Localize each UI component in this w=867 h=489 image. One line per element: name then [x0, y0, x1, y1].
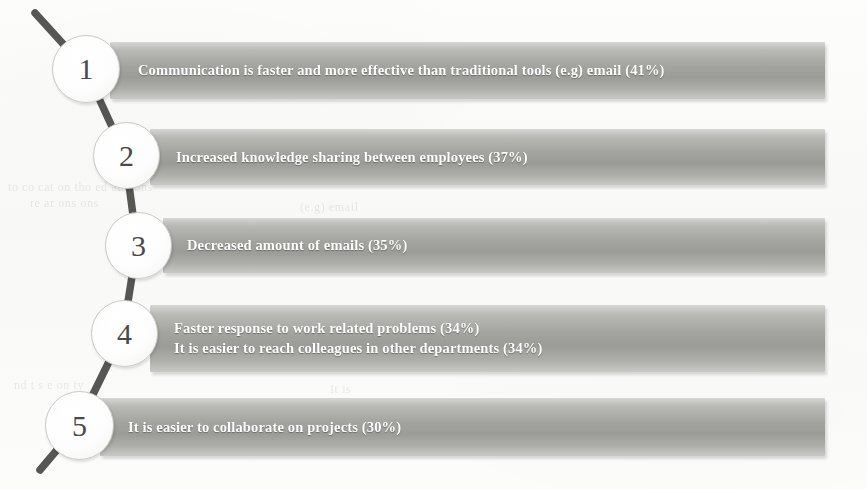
ghost-text-line-d: (e.g) email — [300, 200, 359, 215]
rank-node-3[interactable]: 3 — [105, 212, 172, 279]
rank-number: 2 — [119, 141, 134, 171]
rank-number: 5 — [72, 411, 87, 441]
list-item-bar-5[interactable]: It is easier to collaborate on projects … — [100, 398, 825, 456]
list-item-bar-3[interactable]: Decreased amount of emails (35%) — [163, 218, 825, 273]
ghost-text-line-e: It is — [330, 382, 351, 397]
list-item-label: Decreased amount of emails (35%) — [187, 237, 825, 254]
list-item-label: Increased knowledge sharing between empl… — [176, 149, 825, 166]
infographic-canvas: to co cat on tho ed at c ons re ar ons o… — [0, 0, 867, 489]
rank-number: 3 — [131, 231, 146, 261]
list-item-label: It is easier to collaborate on projects … — [128, 419, 825, 436]
list-item-label: Communication is faster and more effecti… — [138, 62, 825, 79]
list-item-bar-4[interactable]: Faster response to work related problems… — [150, 305, 825, 372]
list-item-bar-2[interactable]: Increased knowledge sharing between empl… — [150, 129, 825, 185]
rank-number: 4 — [117, 319, 132, 349]
rank-node-5[interactable]: 5 — [45, 391, 114, 460]
ghost-text-line-c: nd t s e on ty — [14, 378, 834, 393]
rank-node-2[interactable]: 2 — [93, 122, 160, 189]
list-item-label-secondary: It is easier to reach colleagues in othe… — [174, 340, 825, 357]
rank-number: 1 — [79, 54, 94, 84]
rank-node-4[interactable]: 4 — [91, 300, 158, 367]
ghost-text-line-b: re ar ons ons — [30, 196, 830, 211]
rank-node-1[interactable]: 1 — [52, 35, 120, 103]
list-item-label: Faster response to work related problems… — [174, 320, 825, 337]
list-item-bar-1[interactable]: Communication is faster and more effecti… — [110, 42, 825, 99]
